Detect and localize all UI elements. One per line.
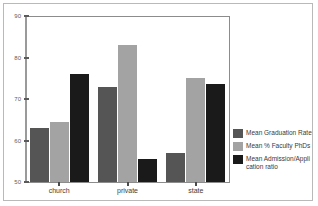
- y-tick-label: 50: [0, 179, 21, 185]
- x-tick-mark: [127, 182, 129, 186]
- x-tick-label: church: [49, 187, 70, 195]
- legend-swatch: [233, 129, 243, 138]
- legend-item[interactable]: Mean Graduation Rate: [233, 129, 315, 138]
- y-tick-label: 60: [0, 138, 21, 144]
- bar: [186, 78, 205, 182]
- bar: [206, 84, 225, 182]
- y-tick-label: 80: [0, 55, 21, 61]
- x-tick-label: state: [188, 187, 203, 195]
- bar-groups: [25, 16, 230, 182]
- bar-group: [25, 16, 230, 182]
- legend-item[interactable]: Mean % Faculty PhDs: [233, 142, 315, 151]
- legend-swatch: [233, 142, 243, 151]
- chart-legend: Mean Graduation RateMean % Faculty PhDsM…: [233, 129, 315, 175]
- legend-label: Mean % Faculty PhDs: [246, 142, 315, 150]
- y-tick-label: 90: [0, 13, 21, 19]
- legend-label: Mean Graduation Rate: [246, 129, 315, 137]
- legend-label: Mean Admission/Appli cation ratio: [246, 155, 315, 171]
- legend-swatch: [233, 155, 243, 164]
- x-tick-label: private: [117, 187, 138, 195]
- y-tick-label: 70: [0, 96, 21, 102]
- bar: [166, 153, 185, 182]
- x-tick-mark: [58, 182, 60, 186]
- x-tick-mark: [195, 182, 197, 186]
- legend-item[interactable]: Mean Admission/Appli cation ratio: [233, 155, 315, 171]
- chart-screenshot: 5060708090 churchprivatestate Mean Gradu…: [0, 0, 318, 206]
